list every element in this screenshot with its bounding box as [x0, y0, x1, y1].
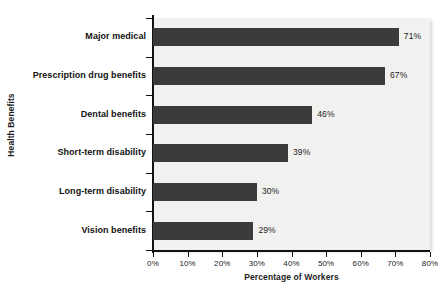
- category-label: Long-term disability: [59, 186, 146, 196]
- x-axis-tick: [361, 252, 362, 257]
- y-axis-tick: [146, 211, 153, 212]
- x-axis-tick: [395, 252, 396, 257]
- bar-value-label: 29%: [258, 225, 275, 235]
- x-axis-tick-label: 40%: [277, 259, 307, 268]
- bar-value-label: 67%: [390, 70, 407, 80]
- category-label-group: Major medicalPrescription drug benefitsD…: [22, 18, 150, 250]
- bar: [153, 67, 385, 85]
- bar-chart: Health Benefits Major medicalPrescriptio…: [0, 0, 447, 290]
- y-axis-tick: [146, 250, 153, 251]
- x-axis-tick-label: 30%: [242, 259, 272, 268]
- x-axis-tick-label: 20%: [207, 259, 237, 268]
- bar-value-label: 71%: [404, 31, 421, 41]
- y-axis-title: Health Benefits: [0, 0, 22, 250]
- x-axis-tick: [430, 252, 431, 257]
- y-axis-title-label: Health Benefits: [6, 93, 16, 156]
- bar-value-label: 39%: [293, 147, 310, 157]
- bar: [153, 222, 253, 240]
- category-label: Short-term disability: [57, 147, 146, 157]
- y-axis-tick: [146, 57, 153, 58]
- bar-value-label: 30%: [262, 186, 279, 196]
- plot-area: [153, 18, 430, 250]
- bar: [153, 183, 257, 201]
- x-axis-tick: [326, 252, 327, 257]
- bar: [153, 144, 288, 162]
- x-axis-tick: [257, 252, 258, 257]
- x-axis-tick: [153, 252, 154, 257]
- x-axis-tick-label: 50%: [311, 259, 341, 268]
- y-axis-tick: [146, 134, 153, 135]
- bar-value-label: 46%: [317, 109, 334, 119]
- x-axis-tick-label: 60%: [346, 259, 376, 268]
- y-axis-tick: [146, 173, 153, 174]
- x-axis-tick-label: 10%: [173, 259, 203, 268]
- x-axis-tick-label: 0%: [138, 259, 168, 268]
- x-axis-tick-label: 80%: [415, 259, 445, 268]
- category-label: Vision benefits: [81, 225, 146, 235]
- category-label: Prescription drug benefits: [33, 70, 146, 80]
- x-axis-tick-label: 70%: [380, 259, 410, 268]
- x-axis-tick: [188, 252, 189, 257]
- category-label: Dental benefits: [81, 109, 146, 119]
- x-axis-tick: [292, 252, 293, 257]
- bar: [153, 106, 312, 124]
- category-label: Major medical: [85, 31, 146, 41]
- y-axis-tick: [146, 95, 153, 96]
- bar: [153, 28, 399, 46]
- x-axis-tick: [222, 252, 223, 257]
- y-axis-tick: [146, 18, 153, 19]
- x-axis-title: Percentage of Workers: [153, 272, 430, 282]
